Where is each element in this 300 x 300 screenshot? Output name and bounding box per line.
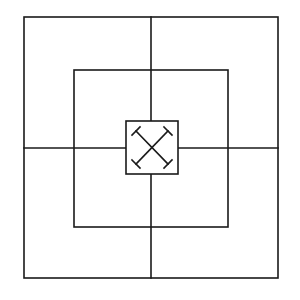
game-board xyxy=(0,0,300,300)
